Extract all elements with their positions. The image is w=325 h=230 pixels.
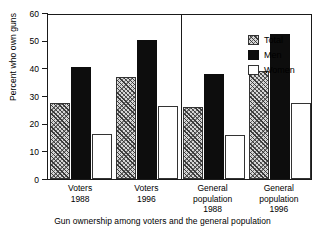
x-axis-category-line: population bbox=[180, 194, 246, 205]
x-axis-category-line: Voters bbox=[47, 183, 113, 194]
x-axis-category-label: Generalpopulation1996 bbox=[246, 183, 312, 215]
legend-label-women: Women bbox=[264, 66, 295, 75]
bar-group bbox=[181, 15, 247, 179]
x-axis-category-line: Voters bbox=[113, 183, 179, 194]
x-axis-category-line: 1996 bbox=[246, 204, 312, 215]
y-axis-tick-mark: 0 bbox=[42, 179, 48, 180]
bar-men bbox=[137, 40, 157, 179]
y-axis-tick-label: 10 bbox=[30, 147, 39, 157]
y-axis-tick-mark: 60 bbox=[42, 13, 48, 14]
y-axis-tick-label: 0 bbox=[34, 175, 39, 185]
x-axis-category-line: General bbox=[180, 183, 246, 194]
x-axis-category-label: Voters1996 bbox=[113, 183, 179, 204]
x-axis-category-line: 1996 bbox=[113, 194, 179, 205]
panel-divider bbox=[181, 15, 182, 179]
y-axis-label: Percent who own guns bbox=[8, 0, 18, 122]
chart-caption: Gun ownership among voters and the gener… bbox=[0, 216, 325, 226]
x-axis-category-line: population bbox=[246, 194, 312, 205]
bar-women bbox=[92, 134, 112, 179]
bar-total bbox=[116, 77, 136, 179]
legend-label-total: Total bbox=[264, 36, 283, 45]
bar-total bbox=[50, 103, 70, 179]
legend-swatch-men-icon bbox=[248, 50, 259, 60]
x-axis-category-line: General bbox=[246, 183, 312, 194]
legend-item-total: Total bbox=[248, 35, 295, 45]
bar-men bbox=[71, 67, 91, 179]
y-axis-tick-label: 20 bbox=[30, 119, 39, 129]
bar-group bbox=[48, 15, 114, 179]
bar-group bbox=[114, 15, 180, 179]
legend-swatch-total-icon bbox=[248, 35, 259, 45]
y-axis-tick-label: 60 bbox=[30, 9, 39, 19]
y-axis-tick-label: 30 bbox=[30, 92, 39, 102]
x-axis-category-line: 1988 bbox=[47, 194, 113, 205]
chart-legend: Total Men Women bbox=[248, 35, 295, 80]
legend-label-men: Men bbox=[264, 51, 282, 60]
bar-total bbox=[249, 71, 269, 179]
bar-women bbox=[225, 135, 245, 179]
bar-total bbox=[183, 107, 203, 179]
legend-item-men: Men bbox=[248, 50, 295, 60]
bar-women bbox=[158, 106, 178, 179]
bar-women bbox=[291, 103, 311, 179]
x-axis-category-line: 1988 bbox=[180, 204, 246, 215]
legend-item-women: Women bbox=[248, 65, 295, 75]
x-axis-category-label: Generalpopulation1988 bbox=[180, 183, 246, 215]
bar-men bbox=[204, 74, 224, 179]
plot-area: 0102030405060 Total Men Women bbox=[47, 14, 312, 180]
y-axis-tick-label: 50 bbox=[30, 36, 39, 46]
y-axis-tick-label: 40 bbox=[30, 64, 39, 74]
chart-figure: Percent who own guns 0102030405060 Total… bbox=[0, 0, 325, 230]
x-axis-category-label: Voters1988 bbox=[47, 183, 113, 204]
legend-swatch-women-icon bbox=[248, 65, 259, 75]
